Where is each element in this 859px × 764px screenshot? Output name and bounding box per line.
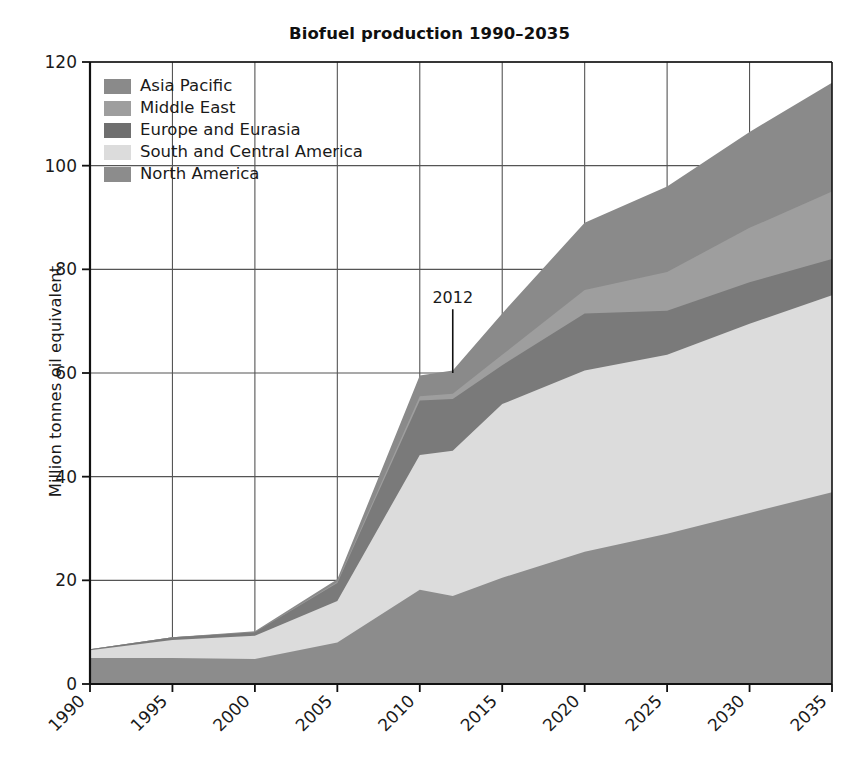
x-tick-label: 2000	[209, 691, 254, 736]
x-tick-label: 2025	[621, 691, 666, 736]
chart-legend: Asia PacificMiddle EastEurope and Eurasi…	[104, 76, 363, 185]
x-tick-label: 1990	[44, 691, 89, 736]
legend-item: Asia Pacific	[104, 76, 363, 97]
y-tick-label: 100	[45, 156, 77, 176]
x-tick-label: 2020	[539, 691, 584, 736]
y-axis-ticks: 020406080100120	[45, 52, 90, 694]
x-axis-ticks: 1990199520002005201020152020202520302035	[44, 684, 832, 735]
y-tick-label: 60	[55, 363, 77, 383]
x-tick-label: 2035	[786, 691, 831, 736]
annotation-label: 2012	[432, 288, 473, 307]
legend-item: Middle East	[104, 98, 363, 119]
y-tick-label: 120	[45, 52, 77, 72]
legend-swatch-icon	[104, 101, 131, 116]
y-tick-label: 0	[66, 674, 77, 694]
legend-item: Europe and Eurasia	[104, 120, 363, 141]
x-tick-label: 2015	[456, 691, 501, 736]
legend-swatch-icon	[104, 167, 131, 182]
legend-swatch-icon	[104, 123, 131, 138]
legend-swatch-icon	[104, 79, 131, 94]
chart-figure: Biofuel production 1990–2035 Million ton…	[0, 0, 859, 764]
legend-item-label: North America	[140, 166, 259, 183]
legend-item-label: South and Central America	[140, 144, 363, 161]
x-tick-label: 2005	[291, 691, 336, 736]
y-tick-label: 40	[55, 467, 77, 487]
legend-item-label: Middle East	[140, 100, 235, 117]
x-tick-label: 2030	[704, 691, 749, 736]
x-tick-label: 1995	[127, 691, 172, 736]
legend-swatch-icon	[104, 145, 131, 160]
y-tick-label: 80	[55, 259, 77, 279]
x-tick-label: 2010	[374, 691, 419, 736]
legend-item: North America	[104, 164, 363, 185]
legend-item-label: Europe and Eurasia	[140, 122, 301, 139]
legend-item: South and Central America	[104, 142, 363, 163]
legend-item-label: Asia Pacific	[140, 78, 232, 95]
y-tick-label: 20	[55, 570, 77, 590]
